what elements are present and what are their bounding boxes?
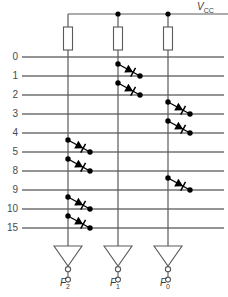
row-label-9: 9 [0, 185, 18, 195]
row-label-10: 10 [0, 204, 18, 214]
diode-cathode-dot [87, 206, 92, 211]
circuit-svg [0, 0, 228, 297]
diode-anode-dot [65, 137, 70, 142]
output-subscript: 1 [116, 283, 120, 290]
row-label-4: 4 [0, 128, 18, 138]
diode-cathode-dot [187, 187, 192, 192]
diode-cathode-dot [87, 149, 92, 154]
row-label-15: 15 [0, 223, 18, 233]
pullup-resistor-F2 [64, 27, 73, 50]
vcc-label: VCC [197, 2, 214, 16]
inverter-triangle-F2 [54, 246, 82, 266]
inverter-triangle-F1 [104, 246, 132, 266]
diode-cathode-dot [87, 168, 92, 173]
inverter-bubble-F0 [165, 267, 170, 272]
diode-cathode-dot [187, 130, 192, 135]
diode-anode-dot [65, 213, 70, 218]
inverter-bubble-F2 [65, 267, 70, 272]
diode-cathode-dot [137, 92, 142, 97]
diode-anode-dot [115, 80, 120, 85]
output-subscript: 2 [66, 283, 70, 290]
schematic-canvas: VCC 012345891015 F2F1F0 [0, 0, 228, 297]
diode-cathode-dot [137, 73, 142, 78]
diode-anode-dot [65, 194, 70, 199]
vcc-letter: V [197, 1, 204, 12]
output-subscript: 0 [166, 283, 170, 290]
diode-cathode-dot [187, 111, 192, 116]
output-label-F0: F0 [160, 278, 170, 292]
diode-anode-dot [165, 175, 170, 180]
diode-anode-dot [165, 99, 170, 104]
row-label-5: 5 [0, 147, 18, 157]
row-label-2: 2 [0, 90, 18, 100]
row-label-1: 1 [0, 71, 18, 81]
diode-anode-dot [115, 61, 120, 66]
output-label-F1: F1 [110, 278, 120, 292]
pullup-resistor-F1 [114, 27, 123, 50]
output-label-F2: F2 [60, 278, 70, 292]
row-label-0: 0 [0, 52, 18, 62]
diode-cathode-dot [87, 225, 92, 230]
rail-junction-dot [165, 11, 170, 16]
rail-junction-dot [115, 11, 120, 16]
vcc-subscript: CC [204, 7, 214, 14]
inverter-bubble-F1 [115, 267, 120, 272]
row-label-8: 8 [0, 166, 18, 176]
row-label-3: 3 [0, 109, 18, 119]
inverter-triangle-F0 [154, 246, 182, 266]
pullup-resistor-F0 [164, 27, 173, 50]
diode-anode-dot [65, 156, 70, 161]
diode-anode-dot [165, 118, 170, 123]
